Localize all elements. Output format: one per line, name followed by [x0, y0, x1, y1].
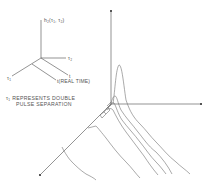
legend-realtime-axis [32, 64, 56, 80]
legend-axes [12, 20, 68, 80]
origin-notch [100, 112, 106, 118]
legend-realtime-label: t(REAL TIME) [57, 78, 90, 84]
trace-3 [108, 103, 166, 174]
trace-5 [88, 126, 140, 178]
diagonal-axis-arrowhead [39, 174, 41, 176]
horizontal-axis-arrowhead [200, 103, 202, 105]
trace-1 [113, 65, 190, 174]
trace-2 [110, 96, 172, 174]
vertical-axis-arrowhead [110, 10, 112, 12]
note-line-2: PULSE SEPARATION [16, 101, 72, 107]
legend-tau2-label: τ₂ [68, 55, 72, 61]
trace-4 [107, 109, 158, 176]
main-axes [40, 11, 201, 175]
legend-vertical-label: h₂(τ₁, τ₂) [44, 17, 64, 23]
trace-6 [62, 147, 96, 180]
legend-tau1-label: τ₁ [7, 75, 11, 81]
